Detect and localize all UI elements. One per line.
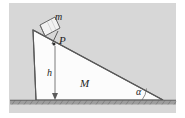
diagram-canvas: m P h M α (0, 0, 185, 118)
label-block-mass: m (55, 11, 62, 22)
label-wedge-mass: M (79, 77, 90, 89)
label-angle: α (136, 86, 142, 97)
label-height: h (47, 67, 52, 78)
physics-diagram-figure: m P h M α (0, 0, 185, 118)
label-point-p: P (58, 34, 66, 46)
point-p-marker (53, 43, 56, 46)
